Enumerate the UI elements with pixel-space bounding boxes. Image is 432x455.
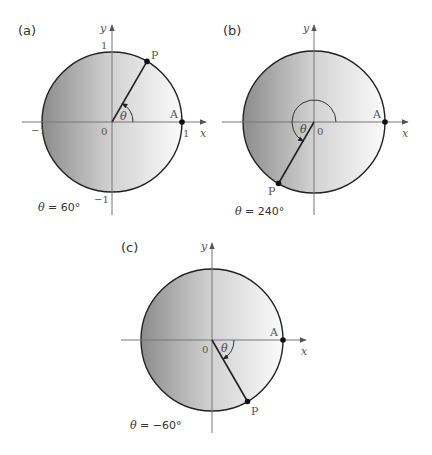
panel-c-label: (c)	[121, 240, 138, 255]
panel-a: (a) x y 1 −1 −1 1 0 θ P A θ = 60°	[18, 22, 207, 215]
point-a-label: A	[169, 108, 179, 121]
tick-right: 1	[183, 128, 189, 139]
panel-a-caption: θ = 60°	[38, 201, 80, 214]
point-p	[144, 59, 150, 65]
panel-c: (c) x y 0 θ P A θ = −60°	[121, 240, 308, 433]
panel-b: (b) x y 0 θ P A θ = 240°	[222, 22, 409, 218]
point-a-label: A	[372, 108, 382, 121]
point-a	[382, 119, 388, 125]
panel-b-label: (b)	[223, 23, 241, 38]
x-axis-label: x	[301, 345, 308, 358]
point-p	[276, 181, 282, 187]
origin-label: 0	[317, 126, 323, 137]
theta-label: θ	[221, 342, 228, 355]
y-axis-label: y	[302, 22, 310, 35]
x-axis-label: x	[402, 127, 409, 140]
tick-left: −1	[31, 125, 46, 136]
y-axis-label: y	[200, 240, 208, 253]
theta-label: θ	[300, 123, 307, 136]
panel-c-caption: θ = −60°	[130, 419, 182, 432]
origin-label: 0	[202, 344, 208, 355]
point-p-label: P	[268, 185, 276, 198]
tick-bottom: −1	[94, 194, 109, 205]
theta-label: θ	[120, 110, 127, 123]
tick-top: 1	[101, 40, 107, 51]
panel-b-caption: θ = 240°	[235, 205, 284, 218]
point-a-label: A	[269, 326, 279, 339]
point-p-label: P	[251, 405, 259, 418]
panel-a-label: (a)	[18, 23, 36, 38]
y-axis-label: y	[99, 22, 107, 35]
point-p	[245, 399, 251, 405]
origin-label: 0	[101, 126, 107, 137]
point-a	[179, 119, 185, 125]
point-a	[280, 337, 286, 343]
unit-circle-figure: (a) x y 1 −1 −1 1 0 θ P A θ = 60° (b) x …	[0, 0, 432, 455]
x-axis-label: x	[200, 127, 207, 140]
point-p-label: P	[151, 49, 159, 62]
